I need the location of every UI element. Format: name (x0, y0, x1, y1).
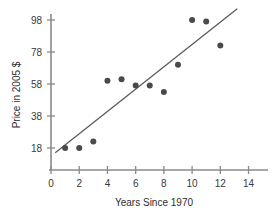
scatter-plot-figure: 1838587898 02468101214 Years Since 1970 … (0, 0, 275, 212)
x-tick-label: 12 (215, 178, 227, 189)
y-tick-label: 98 (31, 15, 43, 26)
x-tick-label: 4 (105, 178, 111, 189)
x-axis-title: Years Since 1970 (115, 197, 193, 208)
data-point (147, 83, 153, 89)
data-point (62, 145, 68, 151)
data-point (175, 62, 181, 68)
y-tick-label: 38 (31, 111, 43, 122)
x-tick-label: 14 (243, 178, 255, 189)
y-tick-label: 18 (31, 143, 43, 154)
x-tick-label: 2 (76, 178, 82, 189)
chart-canvas: 1838587898 02468101214 Years Since 1970 … (0, 0, 275, 212)
data-point (76, 145, 82, 151)
regression-line (55, 9, 237, 153)
data-point (189, 17, 195, 23)
data-point (119, 76, 125, 82)
data-point (217, 43, 223, 49)
x-tick-label: 6 (133, 178, 139, 189)
data-point (104, 78, 110, 84)
trend-line-group (55, 9, 237, 153)
x-tick-label: 0 (48, 178, 54, 189)
x-tick-label: 10 (187, 178, 199, 189)
y-tick-label: 58 (31, 79, 43, 90)
y-axis-title: Price in 2005 $ (11, 61, 22, 128)
x-tick-label: 8 (161, 178, 167, 189)
data-point (90, 139, 96, 145)
data-point (133, 83, 139, 89)
y-tick-label: 78 (31, 47, 43, 58)
data-point (161, 89, 167, 95)
data-point (203, 19, 209, 25)
